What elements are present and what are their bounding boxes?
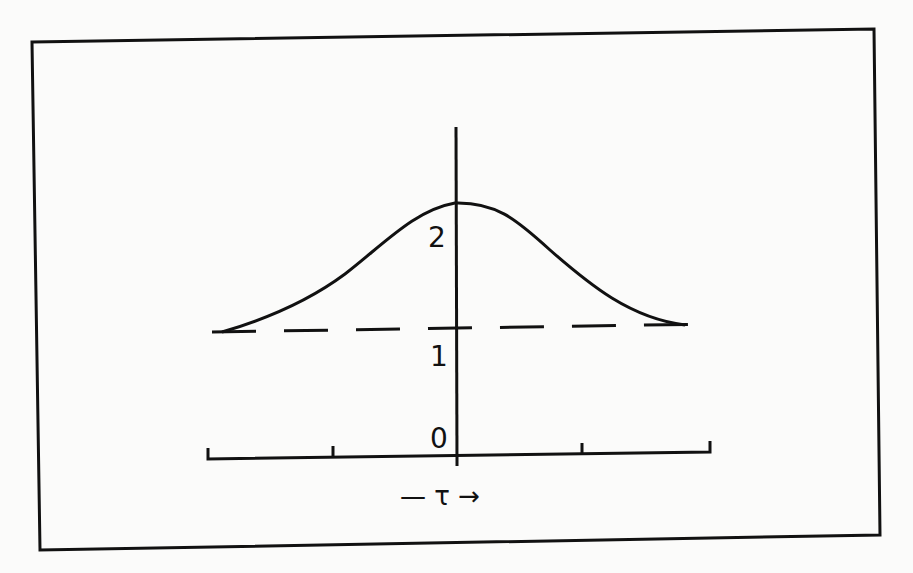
y-label-1: 1	[430, 340, 448, 373]
x-axis-label: — τ →	[400, 481, 480, 511]
figure: 2 1 0 — τ →	[0, 0, 913, 573]
correlation-curve	[222, 203, 685, 332]
asymptote-line	[212, 324, 712, 332]
y-label-0: 0	[430, 422, 448, 455]
x-axis	[208, 441, 710, 459]
y-label-2: 2	[428, 221, 446, 254]
y-axis	[456, 127, 457, 466]
